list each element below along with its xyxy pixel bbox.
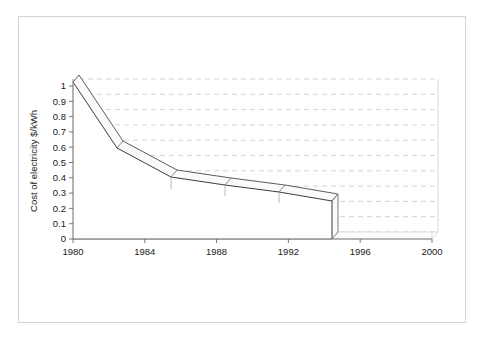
- ribbon-end-cap: [332, 194, 338, 239]
- x-axis-tick-labels: 1980 1984 1988 1992 1996 2000: [62, 246, 442, 257]
- y-tick-label-08: 0.8: [53, 111, 66, 122]
- y-tick-label-0: 0: [61, 233, 66, 244]
- screenshot-page: 1 0.9 0.8 0.7 0.6 0.5 0.4 0.3 0.2 0.1 0 …: [0, 0, 485, 342]
- x-tick-label-1996: 1996: [350, 246, 371, 257]
- y-tick-label-04: 0.4: [53, 172, 66, 183]
- y-tick-label-07: 0.7: [53, 126, 66, 137]
- y-tick-label-09: 0.9: [53, 96, 66, 107]
- x-tick-label-1980: 1980: [62, 246, 83, 257]
- y-tick-label-1: 1: [61, 80, 66, 91]
- y-axis-tick-labels: 1 0.9 0.8 0.7 0.6 0.5 0.4 0.3 0.2 0.1 0: [53, 80, 66, 244]
- y-axis-title: Cost of electricity $/kWh: [28, 110, 39, 212]
- x-tick-label-1992: 1992: [278, 246, 299, 257]
- y-tick-label-02: 0.2: [53, 203, 66, 214]
- x-axis: [73, 239, 432, 243]
- electricity-cost-3d-area-chart: 1 0.9 0.8 0.7 0.6 0.5 0.4 0.3 0.2 0.1 0 …: [19, 17, 465, 322]
- y-tick-label-01: 0.1: [53, 218, 66, 229]
- chart-frame: 1 0.9 0.8 0.7 0.6 0.5 0.4 0.3 0.2 0.1 0 …: [18, 16, 466, 323]
- x-tick-label-2000: 2000: [421, 246, 442, 257]
- x-tick-label-1984: 1984: [134, 246, 155, 257]
- x-axis-ticks: [73, 239, 432, 243]
- y-axis: [69, 79, 73, 239]
- y-tick-label-06: 0.6: [53, 142, 66, 153]
- x-tick-label-1988: 1988: [206, 246, 227, 257]
- y-tick-label-05: 0.5: [53, 157, 66, 168]
- y-axis-ticks: [69, 86, 73, 239]
- y-tick-label-03: 0.3: [53, 187, 66, 198]
